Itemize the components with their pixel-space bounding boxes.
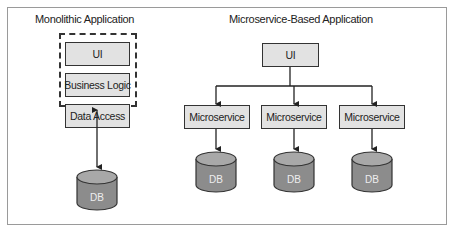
db-label: DB [351,174,393,185]
db-label: DB [76,192,118,203]
connector-lines [0,0,454,232]
mono-database-icon: DB [76,169,118,211]
service-3-database-icon: DB [351,151,393,193]
service-1-database-icon: DB [195,151,237,193]
db-label: DB [195,174,237,185]
service-2-database-icon: DB [273,151,315,193]
db-label: DB [273,174,315,185]
